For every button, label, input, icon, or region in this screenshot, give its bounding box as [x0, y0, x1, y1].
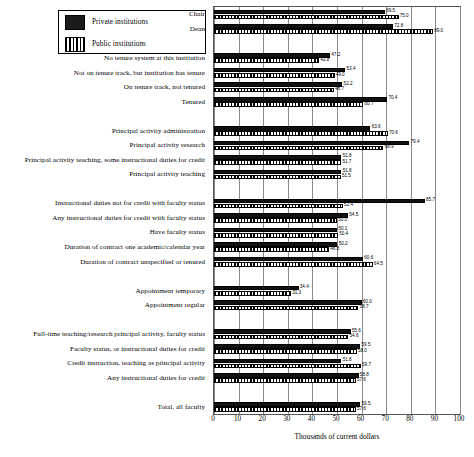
bar-private [214, 402, 360, 407]
category-label: Credit instruction, teaching as principa… [67, 359, 205, 367]
bar-private [214, 228, 337, 233]
bar-value-label: 75.0 [400, 14, 409, 19]
bar-value-label: 54.5 [349, 213, 358, 218]
bar-pair-row: 69.575.0 [214, 9, 460, 24]
faculty-salary-bar-chart: Private institutions Public institutions… [0, 0, 474, 457]
bar-public [214, 218, 337, 223]
x-tick-label: 0 [211, 415, 215, 423]
bar-value-label: 50.0 [338, 218, 347, 223]
bar-pair-row: 52.248.7 [214, 81, 460, 96]
bar-value-label: 70.4 [388, 96, 397, 101]
category-label: Principal activity teaching, some instru… [25, 156, 205, 164]
bar-private [214, 10, 385, 15]
bar-public [214, 29, 433, 34]
x-tick-label: 20 [259, 415, 266, 423]
bar-private [214, 53, 330, 58]
bar-public [214, 306, 358, 311]
bar-value-label: 63.6 [372, 125, 381, 130]
category-label: Principal activity teaching [129, 170, 205, 178]
bar-value-label: 72.8 [394, 24, 403, 29]
x-tick-label: 100 [454, 415, 465, 423]
bar-pair-row: 79.468.9 [214, 139, 460, 154]
bar-value-label: 59.7 [362, 363, 371, 368]
bar-private [214, 344, 360, 349]
bar-value-label: 64.5 [374, 262, 383, 267]
category-label: Tenured [182, 98, 206, 106]
category-label: Duration of contract unspecified or tenu… [80, 258, 205, 266]
bar-private [214, 170, 341, 175]
category-label: Full-time teaching/research principal ac… [33, 330, 205, 338]
bar-public [214, 73, 335, 78]
bar-private [214, 24, 393, 29]
bar-pair-row: 60.058.7 [214, 299, 460, 314]
x-tick-label: 50 [332, 415, 339, 423]
bar-private [214, 82, 342, 87]
bar-value-label: 53.4 [347, 67, 356, 72]
x-tick-label: 80 [406, 415, 413, 423]
bar-public [214, 15, 399, 20]
bar-public [214, 378, 356, 383]
category-label: Dean [190, 25, 205, 33]
bar-pair-row: 47.242.8 [214, 52, 460, 67]
bar-pair-row: 59.558.0 [214, 343, 460, 358]
bar-private [214, 300, 362, 305]
category-label: No tenure system at this institution [104, 54, 205, 62]
bar-value-label: 89.0 [434, 29, 443, 34]
bar-private [214, 97, 387, 102]
bar-value-label: 51.7 [342, 160, 351, 165]
category-label: Any instructional duties for credit [107, 374, 205, 382]
bar-pair-row: 63.670.6 [214, 125, 460, 140]
bar-value-label: 54.6 [350, 334, 359, 339]
category-label: Total, all faculty [158, 403, 205, 411]
bar-value-label: 42.8 [320, 58, 329, 63]
bar-value-label: 50.4 [339, 232, 348, 237]
bar-pair-row: 51.851.5 [214, 168, 460, 183]
gridline [460, 7, 461, 414]
x-tick-label: 70 [382, 415, 389, 423]
category-label: On tenure track, not tenured [124, 83, 205, 91]
bar-private [214, 155, 341, 160]
x-tick-label: 40 [308, 415, 315, 423]
bar-public [214, 233, 338, 238]
bar-public [214, 131, 388, 136]
plot-area: 69.575.072.889.047.242.853.449.052.248.7… [213, 6, 461, 415]
bar-pair-row: 72.889.0 [214, 23, 460, 38]
category-label-column: ChairDeanNo tenure system at this instit… [0, 0, 209, 409]
bar-public [214, 146, 383, 151]
bar-pair-row: 50.150.4 [214, 227, 460, 242]
x-tick-label: 90 [431, 415, 438, 423]
bar-value-label: 69.5 [386, 9, 395, 14]
bar-private [214, 199, 425, 204]
bar-value-label: 60.7 [365, 102, 374, 107]
bar-value-label: 34.4 [300, 285, 309, 290]
category-label: Appointment regular [145, 301, 205, 309]
bar-public [214, 88, 334, 93]
bar-pair-row: 60.664.5 [214, 256, 460, 271]
bar-value-label: 85.7 [426, 198, 435, 203]
x-axis-ticks: 0102030405060708090100 [213, 415, 461, 429]
bar-rows: 69.575.072.889.047.242.853.449.052.248.7… [214, 7, 460, 414]
bar-value-label: 57.6 [357, 378, 366, 383]
x-axis-title: Thousands of current dollars [213, 432, 461, 441]
bar-value-label: 47.2 [331, 53, 340, 58]
bar-value-label: 46.8 [330, 247, 339, 252]
category-label: Not on tenure track, but institution has… [74, 69, 205, 77]
bar-public [214, 407, 356, 412]
bar-value-label: 52.4 [344, 203, 353, 208]
bar-private [214, 329, 351, 334]
bar-pair-row: 34.431.3 [214, 285, 460, 300]
category-label: Any instructional duties for credit with… [52, 214, 205, 222]
bar-private [214, 242, 337, 247]
bar-public [214, 335, 348, 340]
bar-value-label: 58.0 [358, 349, 367, 354]
bar-pair-row: 53.449.0 [214, 67, 460, 82]
bar-value-label: 51.5 [342, 174, 351, 179]
x-tick-label: 60 [357, 415, 364, 423]
bar-pair-row: 70.460.7 [214, 96, 460, 111]
category-label: Faculty status, or instructional duties … [70, 345, 205, 353]
bar-pair-row: 59.557.6 [214, 401, 460, 416]
bar-pair-row: 58.857.6 [214, 372, 460, 387]
category-label: Have faculty status [150, 228, 205, 236]
bar-value-label: 79.4 [411, 140, 420, 145]
bar-public [214, 102, 363, 107]
